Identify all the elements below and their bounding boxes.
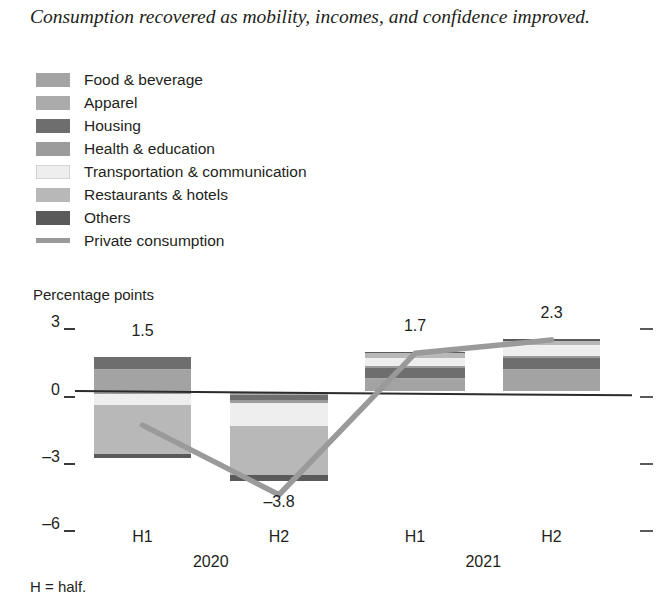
bar-segment [503,358,600,369]
y-axis-tick-mark-right [640,463,653,465]
bar-segment [94,394,191,405]
bar-segment [365,368,465,378]
bar-segment [94,357,191,369]
bar-value-label: 2.3 [492,304,612,322]
chart-plot-area: 30–3–61.5–3.81.72.3H1H2H1H220202021 [0,0,666,607]
y-axis-tick-mark [64,463,75,465]
y-axis-tick-mark-right [640,396,653,398]
bar-segment [94,454,191,457]
bar-segment [230,403,328,427]
y-axis-tick-mark-right [640,328,653,330]
bar-segment [94,370,191,391]
x-axis-tick-label: H1 [355,528,475,546]
x-axis-tick-label: H2 [219,528,339,546]
bar-segment [503,341,600,345]
bar-segment [365,353,465,357]
x-axis-tick-label: H2 [492,528,612,546]
y-axis-tick-mark [64,530,75,532]
bar-segment [94,369,191,370]
chart-footnote: H = half. [30,578,86,595]
bar-segment [503,356,600,358]
bar-segment [503,370,600,391]
bar-segment [230,426,328,474]
bar-segment [365,352,465,353]
bar-segment [503,339,600,341]
y-axis-tick-mark-right [640,530,653,532]
x-axis-tick-label: H1 [83,528,203,546]
bar-value-label: 1.7 [355,317,475,335]
bar-segment [230,475,328,482]
bar-segment [94,405,191,454]
bar-segment [365,379,465,391]
bar-segment [503,369,600,370]
bar-value-label: –3.8 [219,493,339,511]
y-axis-tick-label: –6 [16,515,60,533]
y-axis-tick-label: 3 [16,313,60,331]
bar-segment [365,378,465,379]
bar-segment [503,345,600,355]
bar-value-label: 1.5 [83,322,203,340]
bar-segment [365,366,465,368]
x-axis-year-label: 2020 [151,553,271,571]
y-axis-tick-label: 0 [16,381,60,399]
y-axis-tick-label: –3 [16,448,60,466]
x-axis-year-label: 2021 [423,553,543,571]
y-axis-tick-mark [64,328,75,330]
bar-segment [365,358,465,366]
y-axis-tick-mark [64,396,75,398]
